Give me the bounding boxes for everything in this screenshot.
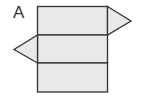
bottom-face: [38, 63, 108, 92]
top-face: [38, 7, 108, 36]
left-triangle-face: [14, 35, 38, 63]
prism-net-diagram: A: [0, 0, 143, 100]
middle-face: [38, 35, 108, 63]
right-triangle-face: [108, 7, 132, 36]
figure-label: A: [13, 4, 24, 21]
